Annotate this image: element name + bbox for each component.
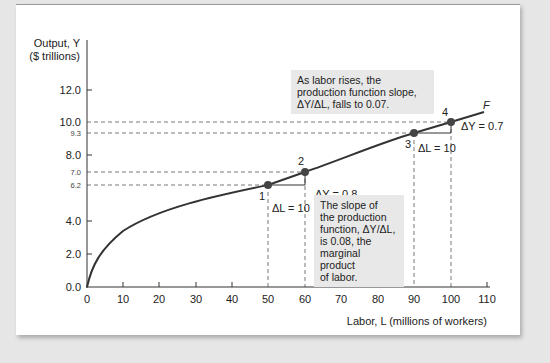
- svg-text:ΔL = 10: ΔL = 10: [418, 142, 456, 154]
- y-axis-label: Output, Y: [34, 37, 81, 49]
- annotation-top: As labor rises, the production function …: [291, 70, 434, 114]
- svg-text:60: 60: [299, 293, 311, 305]
- svg-text:4.0: 4.0: [66, 215, 81, 227]
- svg-text:110: 110: [478, 293, 496, 305]
- svg-text:0.0: 0.0: [66, 281, 81, 293]
- svg-text:3: 3: [405, 138, 411, 150]
- production-curve: [87, 112, 484, 287]
- svg-text:100: 100: [442, 293, 460, 305]
- production-function-chart: 12.0 10.0 8.0 4.0 2.0 0.0 9.3 7.0 6.2 01…: [0, 0, 550, 363]
- svg-text:9.3: 9.3: [71, 129, 81, 138]
- svg-text:2: 2: [298, 155, 304, 167]
- svg-text:7.0: 7.0: [71, 168, 81, 177]
- svg-text:0: 0: [84, 293, 90, 305]
- x-axis-label: Labor, L (millions of workers): [347, 315, 487, 327]
- svg-text:80: 80: [372, 293, 384, 305]
- svg-text:50: 50: [262, 293, 274, 305]
- svg-text:8.0: 8.0: [66, 149, 81, 161]
- annotation-bottom: The slope of the production function, ΔY…: [314, 195, 404, 287]
- svg-text:ΔY = 0.7: ΔY = 0.7: [461, 120, 503, 132]
- curve-label: F: [483, 99, 491, 111]
- svg-text:10.0: 10.0: [60, 116, 81, 128]
- svg-text:6.2: 6.2: [71, 181, 81, 190]
- svg-text:30: 30: [190, 293, 202, 305]
- svg-text:($ trillions): ($ trillions): [29, 50, 80, 62]
- svg-text:40: 40: [226, 293, 238, 305]
- svg-text:70: 70: [335, 293, 347, 305]
- svg-text:4: 4: [442, 106, 448, 118]
- svg-text:2.0: 2.0: [66, 248, 81, 260]
- svg-text:20: 20: [153, 293, 165, 305]
- svg-text:90: 90: [408, 293, 420, 305]
- svg-text:ΔL = 10: ΔL = 10: [272, 202, 310, 214]
- svg-text:10: 10: [117, 293, 129, 305]
- svg-text:1: 1: [259, 190, 265, 202]
- svg-text:12.0: 12.0: [60, 84, 81, 96]
